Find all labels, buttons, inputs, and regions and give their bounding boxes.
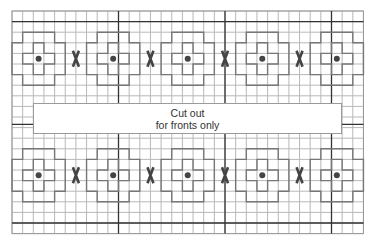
dot-symbol-icon [185, 56, 191, 62]
dot-symbol-icon [334, 172, 340, 178]
dot-symbol-icon [36, 56, 42, 62]
cutout-label-line2: for fronts only [156, 119, 220, 131]
cutout-label-line1: Cut out [171, 107, 205, 119]
dot-symbol-icon [110, 56, 116, 62]
dot-symbol-icon [259, 56, 265, 62]
dot-symbol-icon [185, 172, 191, 178]
dot-symbol-icon [36, 172, 42, 178]
dot-symbol-icon [259, 172, 265, 178]
dot-symbol-icon [110, 172, 116, 178]
dot-symbol-icon [334, 56, 340, 62]
cutout-box: Cut out for fronts only [33, 103, 342, 134]
